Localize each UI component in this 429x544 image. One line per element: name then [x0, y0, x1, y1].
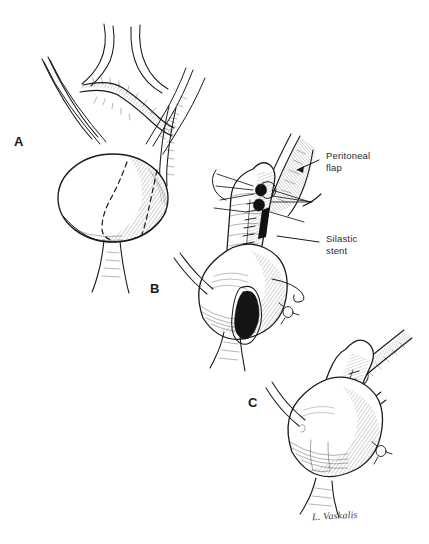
panel-letter-c: C	[248, 396, 258, 409]
illustration-artwork	[0, 0, 429, 544]
panel-a-artwork	[42, 24, 205, 293]
medical-illustration-figure: A B C Peritoneal flap Silastic stent L. …	[0, 0, 429, 544]
panel-letter-b: B	[150, 282, 160, 295]
callout-silastic-stent: Silastic stent	[326, 233, 357, 257]
panel-letter-a: A	[14, 135, 24, 148]
callout-peritoneal-flap: Peritoneal flap	[326, 150, 370, 174]
leader-silastic-stent	[277, 236, 319, 242]
panel-c-artwork	[266, 330, 412, 517]
